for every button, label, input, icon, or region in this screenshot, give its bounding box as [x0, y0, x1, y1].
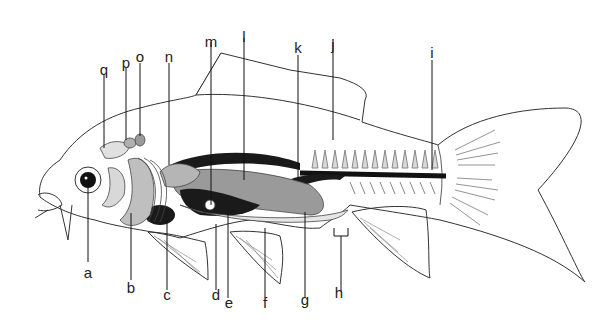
anal-fin [352, 206, 430, 278]
label-b: b [127, 280, 135, 295]
pelvic-fin [230, 231, 283, 284]
label-l: l [242, 29, 245, 44]
label-f: f [263, 295, 267, 310]
pectoral-fin [148, 232, 208, 280]
label-n: n [165, 49, 173, 64]
vent-bracket [334, 228, 348, 236]
label-g: g [301, 292, 309, 307]
gall-bladder [205, 200, 215, 210]
label-i: i [430, 45, 433, 60]
label-j: j [331, 37, 334, 52]
label-k: k [294, 40, 302, 55]
label-c: c [163, 287, 171, 302]
label-h: h [335, 285, 343, 300]
label-a: a [84, 265, 92, 280]
label-m: m [205, 34, 218, 49]
label-q: q [100, 62, 108, 77]
label-e: e [225, 295, 233, 310]
label-o: o [136, 49, 144, 64]
label-d: d [212, 287, 220, 302]
label-p: p [122, 55, 130, 70]
